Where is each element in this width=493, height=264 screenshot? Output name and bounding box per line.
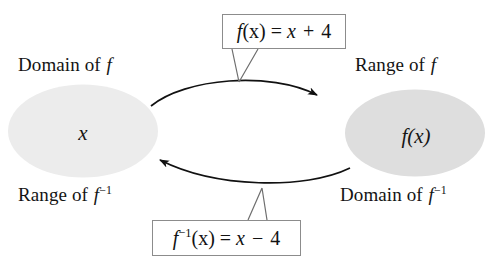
inverse-formula-exponent: −1: [178, 226, 191, 240]
inverse-formula-operator: −: [245, 227, 270, 249]
forward-formula-argument: (x) =: [242, 20, 287, 42]
forward-formula-rhs-variable: x: [287, 20, 296, 42]
label-range-of-f-text: Range of: [355, 54, 430, 75]
forward-mapping-arrow: [151, 80, 317, 106]
function-inverse-diagram: Domain of f Range of f Range of f−1 Doma…: [0, 0, 493, 264]
label-domain-of-f-inverse-exponent: −1: [434, 184, 447, 197]
label-domain-of-f-inverse-text: Domain of: [340, 184, 428, 205]
forward-formula-constant: 4: [321, 20, 331, 42]
inverse-function-formula-box: f−1(x) = x − 4: [152, 220, 301, 256]
label-domain-of-f-text: Domain of: [18, 54, 106, 75]
range-element-label: f(x): [401, 124, 430, 149]
forward-formula-operator: +: [296, 20, 321, 42]
label-range-of-f-inverse-exponent: −1: [99, 184, 112, 197]
inverse-formula-rhs-variable: x: [236, 227, 245, 249]
label-range-of-f-inverse: Range of f−1: [18, 184, 112, 206]
label-domain-of-f: Domain of f: [18, 54, 112, 76]
inverse-mapping-arrow: [160, 160, 350, 183]
forward-formula-leader-line: [232, 49, 258, 82]
inverse-formula-leader-line: [248, 188, 267, 220]
inverse-formula-argument: (x) =: [191, 227, 236, 249]
label-domain-of-f-inverse: Domain of f−1: [340, 184, 447, 206]
label-range-of-f-inverse-text: Range of: [18, 184, 93, 205]
forward-function-formula-box: f(x) = x + 4: [222, 14, 346, 49]
label-range-of-f: Range of f: [355, 54, 436, 76]
label-domain-of-f-variable: f: [106, 54, 112, 75]
domain-element-label: x: [78, 121, 87, 146]
label-range-of-f-variable: f: [430, 54, 436, 75]
inverse-formula-constant: 4: [270, 227, 280, 249]
